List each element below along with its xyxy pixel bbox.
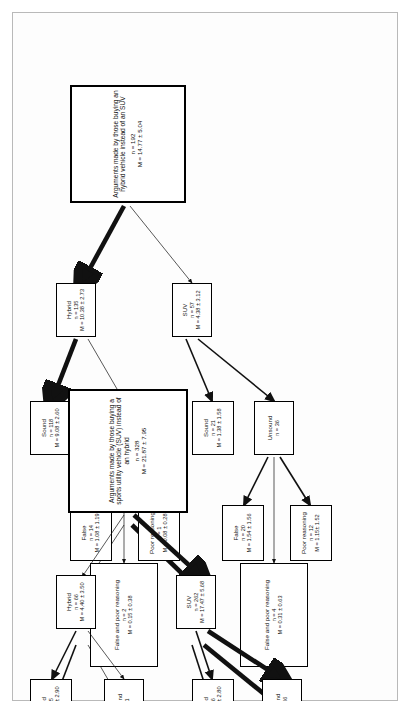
edge-layer-3: [12, 12, 398, 701]
diagram-canvas-3: False n = 8 M = 0.53 ± 0.92 Poor reasoni…: [12, 12, 398, 701]
diagram-viewport-3: False n = 8 M = 0.53 ± 0.92 Poor reasoni…: [12, 12, 398, 701]
figure-page: Arguments made by those buying an hybrid…: [0, 0, 412, 713]
